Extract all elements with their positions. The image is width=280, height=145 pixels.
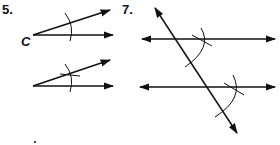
construction-arcs bbox=[185, 28, 244, 117]
transversal bbox=[155, 8, 237, 133]
geometry-figure: 5. C 7. bbox=[0, 0, 280, 145]
angle-c bbox=[33, 10, 113, 41]
stray-mark bbox=[34, 141, 36, 143]
copied-angle bbox=[33, 60, 113, 92]
problem-5-number: 5. bbox=[2, 2, 13, 17]
problem-7-number: 7. bbox=[122, 2, 133, 17]
parallel-lines bbox=[140, 39, 275, 87]
vertex-label-c: C bbox=[21, 34, 31, 49]
